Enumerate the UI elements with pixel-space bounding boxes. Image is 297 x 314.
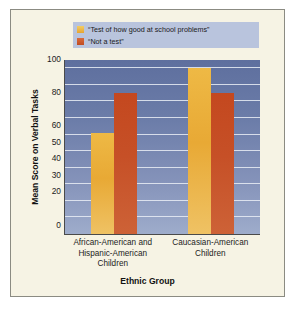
legend-label: “Test of how good at school problems” [88, 25, 209, 34]
legend-label: “Not a test” [88, 37, 124, 46]
legend-item: “Not a test” [77, 36, 259, 47]
y-axis-title: Mean Score on Verbal Tasks [29, 60, 41, 234]
bar [188, 68, 211, 234]
bar [211, 93, 234, 234]
bar [114, 93, 137, 234]
plot-area: 0203040506080100 [64, 60, 260, 235]
y-tick-label: 50 [52, 137, 61, 147]
y-tick-label: 100 [47, 54, 61, 64]
chart-legend: “Test of how good at school problems” “N… [73, 22, 259, 48]
y-tick-label: 20 [52, 186, 61, 196]
chart-figure: “Test of how good at school problems” “N… [10, 9, 285, 297]
gridline [65, 67, 260, 68]
x-tick-label-group-1: Caucasian-AmericanChildren [155, 238, 265, 259]
legend-item: “Test of how good at school problems” [77, 24, 259, 35]
y-tick-label: 80 [52, 87, 61, 97]
y-tick-label: 0 [56, 220, 61, 230]
x-axis-title: Ethnic Group [11, 276, 284, 286]
x-tick-label-group-0: African-American andHispanic-AmericanChi… [58, 238, 168, 270]
bar [91, 133, 114, 234]
y-tick-label: 40 [52, 153, 61, 163]
y-tick-label: 30 [52, 170, 61, 180]
legend-swatch-orange-icon [77, 38, 84, 45]
legend-swatch-yellow-icon [77, 26, 84, 33]
gridline [65, 84, 260, 85]
y-tick-label: 60 [52, 120, 61, 130]
